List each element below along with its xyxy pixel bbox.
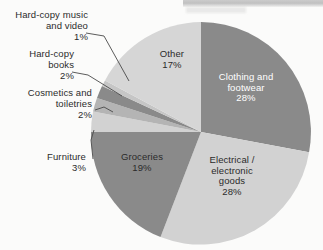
slice-label-value: 28%	[190, 187, 274, 198]
outside-label-hard-copy-books: Hard-copy books 2%	[0, 49, 74, 81]
slice-label-groceries: Groceries 19%	[106, 152, 178, 173]
outside-label-value: 2%	[0, 71, 74, 82]
outside-label-value: 1%	[0, 32, 88, 43]
slice-label-other: Other 17%	[141, 49, 203, 70]
slice-label-value: 19%	[106, 163, 178, 174]
outside-label-furniture: Furniture 3%	[0, 152, 86, 174]
outside-label-hard-copy-music-and-video: Hard-copy music and video 1%	[0, 10, 88, 42]
slice-label-value: 17%	[141, 60, 203, 71]
outside-label-value: 2%	[0, 110, 92, 121]
outside-label-value: 3%	[0, 163, 86, 174]
pie-chart-figure: Clothing and footwear 28% Electrical / e…	[0, 0, 323, 250]
slice-label-value: 28%	[198, 93, 294, 104]
slice-label-clothing-and-footwear: Clothing and footwear 28%	[198, 72, 294, 104]
outside-label-cosmetics-and-toiletries: Cosmetics and toiletries 2%	[0, 88, 92, 120]
slice-label-electrical-electronic-goods: Electrical / electronic goods 28%	[190, 155, 274, 198]
